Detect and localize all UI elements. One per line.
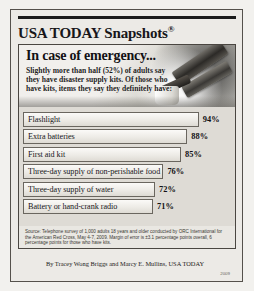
figure-frame: USA TODAY Snapshots® In case of emergenc… bbox=[10, 9, 243, 282]
bar-value: 85% bbox=[185, 150, 202, 159]
source-note: Source: Telephone survey of 1,000 adults… bbox=[19, 226, 235, 248]
bar-value: 71% bbox=[157, 202, 174, 211]
credit-mark: 2009 bbox=[18, 270, 236, 277]
header-band: In case of emergency... Slightly more th… bbox=[19, 45, 235, 107]
snapshot-card: In case of emergency... Slightly more th… bbox=[18, 44, 236, 249]
registered-trademark-icon: ® bbox=[168, 24, 175, 34]
bar-label: Three-day supply of water bbox=[28, 185, 113, 194]
bar-first-aid-kit: First aid kit bbox=[23, 147, 181, 162]
masthead-rule bbox=[18, 16, 236, 19]
header-text-block: In case of emergency... Slightly more th… bbox=[19, 45, 235, 94]
bar-value: 72% bbox=[159, 185, 176, 194]
bar-label: First aid kit bbox=[28, 150, 65, 159]
bar-label: Battery or hand-crank radio bbox=[28, 202, 117, 211]
bar-flashlight: Flashlight bbox=[23, 112, 199, 127]
bar-extra-batteries: Extra batteries bbox=[23, 129, 187, 144]
table-row: Battery or hand-crank radio 71% bbox=[23, 199, 231, 215]
bar-value: 94% bbox=[203, 115, 220, 124]
byline-row: By Tracey Wong Briggs and Marcy E. Mulli… bbox=[18, 249, 236, 270]
table-row: Three-day supply of water 72% bbox=[23, 181, 231, 197]
bar-value: 76% bbox=[167, 167, 184, 176]
bar-label: Flashlight bbox=[28, 115, 60, 124]
masthead-title-text: USA TODAY Snapshots bbox=[18, 25, 168, 41]
bar-chart: Flashlight 94% Extra batteries 88% First… bbox=[19, 107, 235, 226]
table-row: Three-day supply of non-perishable food … bbox=[23, 164, 231, 180]
chart-subtitle: Slightly more than half (52%) of adults … bbox=[26, 66, 172, 94]
table-row: Extra batteries 88% bbox=[23, 129, 231, 145]
bar-label: Extra batteries bbox=[28, 132, 75, 141]
bar-label: Three-day supply of non-perishable food bbox=[28, 167, 160, 176]
masthead-title: USA TODAY Snapshots® bbox=[18, 21, 236, 44]
bar-water-supply: Three-day supply of water bbox=[23, 182, 155, 197]
snapshot-figure: USA TODAY Snapshots® In case of emergenc… bbox=[0, 0, 254, 291]
byline: By Tracey Wong Briggs and Marcy E. Mulli… bbox=[46, 260, 204, 267]
table-row: First aid kit 85% bbox=[23, 146, 231, 162]
bar-value: 88% bbox=[191, 132, 208, 141]
bar-food-supply: Three-day supply of non-perishable food bbox=[23, 164, 163, 179]
chart-headline: In case of emergency... bbox=[26, 48, 229, 64]
bar-radio: Battery or hand-crank radio bbox=[23, 199, 153, 214]
table-row: Flashlight 94% bbox=[23, 111, 231, 127]
photo-shadow bbox=[19, 96, 235, 107]
